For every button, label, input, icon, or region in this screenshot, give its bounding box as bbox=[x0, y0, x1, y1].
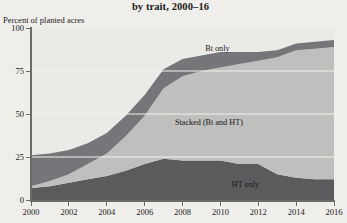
x-tick-2014 bbox=[296, 201, 297, 206]
x-tick-label-2012: 2012 bbox=[243, 207, 273, 217]
x-tick-2016 bbox=[334, 201, 335, 206]
x-tick-label-2002: 2002 bbox=[54, 207, 84, 217]
x-tick-2000 bbox=[31, 201, 32, 206]
series-label-ht-only: HT only bbox=[232, 180, 259, 189]
x-tick-label-2004: 2004 bbox=[92, 207, 122, 217]
stacked-area-svg bbox=[31, 28, 334, 200]
y-tick-100 bbox=[26, 28, 30, 30]
x-tick-2002 bbox=[68, 201, 69, 206]
y-tick-label-25: 25 bbox=[2, 152, 24, 162]
y-tick-0 bbox=[26, 200, 30, 202]
x-tick-label-2000: 2000 bbox=[16, 207, 46, 217]
y-tick-label-75: 75 bbox=[2, 66, 24, 76]
x-tick-2006 bbox=[144, 201, 145, 206]
x-tick-label-2010: 2010 bbox=[205, 207, 235, 217]
x-tick-label-2014: 2014 bbox=[281, 207, 311, 217]
chart-title: by trait, 2000–16 bbox=[0, 0, 341, 13]
x-tick-2008 bbox=[182, 201, 183, 206]
series-label-stacked: Stacked (Bt and HT) bbox=[175, 118, 243, 127]
y-tick-25 bbox=[26, 157, 30, 159]
y-tick-label-50: 50 bbox=[2, 109, 24, 119]
y-tick-75 bbox=[26, 71, 30, 73]
x-tick-label-2006: 2006 bbox=[130, 207, 160, 217]
y-tick-50 bbox=[26, 114, 30, 116]
plot-area bbox=[31, 28, 334, 200]
y-tick-label-0: 0 bbox=[2, 195, 24, 205]
x-tick-2012 bbox=[258, 201, 259, 206]
series-label-bt-only: Bt only bbox=[205, 44, 229, 53]
x-tick-2004 bbox=[106, 201, 107, 206]
x-tick-label-2008: 2008 bbox=[168, 207, 198, 217]
x-tick-label-2016: 2016 bbox=[319, 207, 347, 217]
y-axis-line bbox=[30, 27, 32, 201]
y-tick-label-100: 100 bbox=[2, 23, 24, 33]
x-tick-2010 bbox=[220, 201, 221, 206]
